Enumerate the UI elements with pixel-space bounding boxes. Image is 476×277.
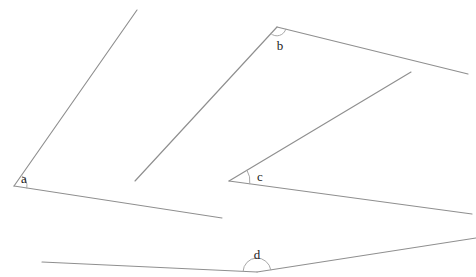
ray-c-lower [229,181,472,214]
vertex-label-d: d [254,247,261,262]
ray-d-left [42,262,257,272]
rays-group [14,10,476,272]
vertex-label-b: b [277,38,284,53]
angle-arcs-group [21,29,285,271]
angle-diagram: abcd [0,0,476,277]
ray-d-right [257,238,476,272]
vertex-label-a: a [21,171,27,186]
ray-a-upper [14,10,137,186]
angle-diagram-canvas: abcd [0,0,476,277]
ray-b-right [277,27,468,74]
vertex-label-c: c [257,169,263,184]
vertex-labels-group: abcd [21,38,283,262]
ray-b-left [135,27,277,181]
angle-arc-b [271,29,286,36]
ray-c-upper [229,72,411,181]
ray-a-lower [14,186,222,218]
angle-arc-c [247,170,250,184]
